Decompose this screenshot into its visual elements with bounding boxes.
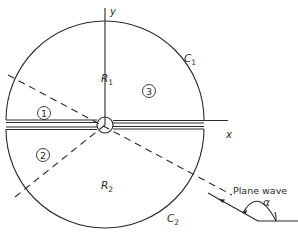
- contour-c1-label: C1: [184, 52, 196, 67]
- plane-wave-line: [208, 193, 258, 221]
- y-axis-label: y: [109, 6, 117, 17]
- zone-3-label: 3: [146, 86, 152, 97]
- contour-c2-label: C2: [167, 212, 179, 227]
- x-axis-label: x: [225, 129, 232, 140]
- diffraction-diagram: 1 2 3 y x R1 R2 C1 C2 Plane wave α: [0, 0, 298, 237]
- angle-alpha-label: α: [263, 196, 270, 208]
- region-r1-label: R1: [101, 72, 113, 87]
- plane-wave-label: Plane wave: [233, 185, 287, 196]
- angle-arc-outer: [243, 201, 276, 221]
- dashed-shadow-boundary-b: [15, 125, 105, 197]
- region-r2-label: R2: [101, 179, 113, 194]
- dashed-shadow-boundary-a: [8, 75, 232, 195]
- zone-2-label: 2: [40, 150, 46, 161]
- zone-1-label: 1: [41, 108, 47, 119]
